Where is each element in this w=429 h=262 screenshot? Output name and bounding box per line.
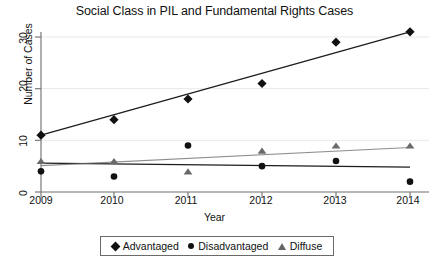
triangle-marker-icon bbox=[278, 243, 286, 250]
axis-lines bbox=[35, 32, 429, 198]
legend-label-advantaged: Advantaged bbox=[123, 240, 179, 252]
chart-container: Social Class in PIL and Fundamental Righ… bbox=[0, 0, 429, 262]
legend-label-diffuse: Diffuse bbox=[290, 240, 323, 252]
plot-area bbox=[0, 0, 429, 262]
diamond-marker-icon bbox=[110, 241, 120, 251]
legend-item-disadvantaged: Disadvantaged bbox=[188, 240, 268, 252]
gridlines bbox=[41, 37, 429, 192]
legend-label-disadvantaged: Disadvantaged bbox=[198, 240, 268, 252]
trend-lines bbox=[41, 32, 410, 167]
data-markers bbox=[36, 27, 414, 185]
chart-legend: Advantaged Disadvantaged Diffuse bbox=[100, 236, 334, 256]
legend-item-diffuse: Diffuse bbox=[278, 240, 323, 252]
circle-marker-icon bbox=[188, 243, 194, 249]
legend-item-advantaged: Advantaged bbox=[112, 240, 179, 252]
